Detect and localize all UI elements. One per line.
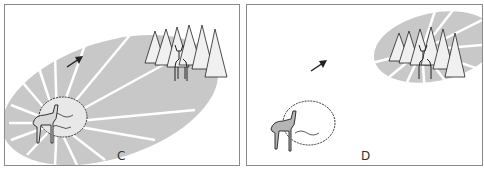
direction-arrow-icon <box>311 60 327 71</box>
panel-c: C <box>4 4 240 166</box>
panel-label-c: C <box>117 149 125 163</box>
panel-label-d: D <box>361 149 370 163</box>
panel-c-illustration <box>5 5 239 165</box>
panel-d: D <box>246 4 483 166</box>
panel-d-illustration <box>247 5 482 165</box>
